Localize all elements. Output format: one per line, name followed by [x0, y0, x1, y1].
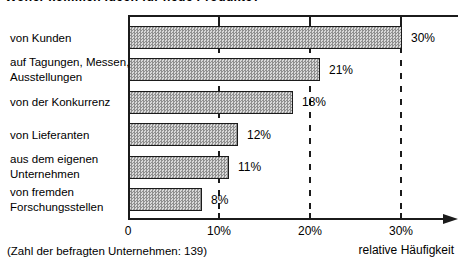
- value-label: 30%: [411, 31, 435, 45]
- x-tick-label: 30%: [383, 224, 419, 238]
- bar: [129, 58, 320, 81]
- x-tick-top: [309, 15, 311, 22]
- chart-title-text: Woher kommen Ideen für neue Produkte?: [5, 0, 260, 4]
- x-axis-label: relative Häufigkeit: [359, 243, 454, 257]
- gridline: [400, 21, 402, 218]
- x-tick-label: 10%: [201, 224, 237, 238]
- bar-chart-figure: Woher kommen Ideen für neue Produkte? (Z…: [0, 0, 462, 272]
- category-label: von Kunden: [10, 30, 130, 45]
- value-label: 21%: [329, 63, 353, 77]
- chart-title: Woher kommen Ideen für neue Produkte?: [5, 0, 260, 5]
- bar: [129, 156, 229, 179]
- value-label: 8%: [211, 193, 228, 207]
- bar: [129, 188, 202, 211]
- survey-note: (Zahl der befragten Unternehmen: 139): [7, 245, 207, 257]
- x-tick-top: [400, 15, 402, 22]
- bar: [129, 91, 293, 114]
- x-tick-label: 0: [110, 224, 146, 238]
- category-label: aus dem eigenen Unternehmen: [10, 152, 130, 182]
- x-tick-bottom: [400, 213, 402, 220]
- value-label: 12%: [247, 128, 271, 142]
- x-tick-label: 20%: [292, 224, 328, 238]
- x-tick-bottom: [309, 213, 311, 220]
- gridline: [309, 21, 311, 218]
- bar: [129, 123, 238, 146]
- bar: [129, 26, 402, 49]
- x-axis-line: [128, 218, 444, 220]
- x-tick-top: [218, 15, 220, 22]
- x-axis-arrowhead: [443, 214, 458, 224]
- category-label: auf Tagungen, Messen, Ausstellungen: [10, 55, 130, 85]
- category-label: von Lieferanten: [10, 127, 130, 142]
- top-frame-line: [128, 15, 458, 17]
- gridline: [218, 21, 220, 218]
- category-label: von der Konkurrenz: [10, 95, 130, 110]
- category-label: von fremden Forschungsstellen: [10, 185, 130, 215]
- value-label: 18%: [302, 95, 326, 109]
- x-tick-bottom: [218, 213, 220, 220]
- value-label: 11%: [238, 160, 261, 174]
